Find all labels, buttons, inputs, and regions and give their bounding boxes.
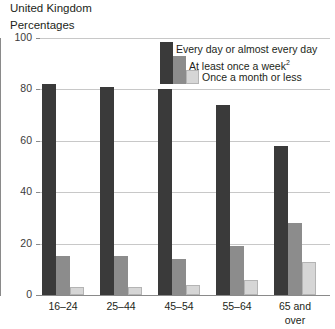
x-axis-tick-line: over xyxy=(255,313,335,327)
bar xyxy=(230,246,244,295)
gridline xyxy=(40,89,330,90)
bar xyxy=(56,256,70,295)
y-axis-line xyxy=(0,38,1,296)
bar xyxy=(70,287,84,295)
y-axis-tick-label: 40 xyxy=(0,185,32,197)
legend-label: Every day or almost every day xyxy=(176,42,317,56)
bar xyxy=(274,146,288,295)
y-axis-tick-label: 100 xyxy=(0,31,32,43)
chart-legend: Every day or almost every dayAt least on… xyxy=(160,42,335,84)
bar-chart: United Kingdom Percentages 020406080100 … xyxy=(0,0,335,329)
y-axis-tick-label: 20 xyxy=(0,237,32,249)
legend-swatch xyxy=(160,42,173,84)
x-axis-tick-label: 65 andover xyxy=(255,299,335,327)
y-axis-tick-label: 60 xyxy=(0,134,32,146)
bar xyxy=(100,87,114,295)
x-axis-tick-line: 65 and xyxy=(255,299,335,313)
y-axis-tick-mark xyxy=(36,295,40,296)
page-title: United Kingdom xyxy=(10,0,92,17)
x-axis-line xyxy=(40,295,330,296)
legend-footnote-marker: 2 xyxy=(286,59,290,66)
gridline xyxy=(40,141,330,142)
bar xyxy=(158,89,172,295)
bar xyxy=(42,84,56,295)
bar xyxy=(216,105,230,295)
y-axis-tick-label: 80 xyxy=(0,82,32,94)
gridline xyxy=(40,38,330,39)
bar xyxy=(302,262,316,295)
bar xyxy=(288,223,302,295)
legend-label: Once a month or less xyxy=(202,70,302,84)
bar xyxy=(244,280,258,295)
legend-swatch xyxy=(173,56,186,84)
bar xyxy=(128,287,142,295)
chart-header: United Kingdom Percentages xyxy=(10,0,92,34)
bar xyxy=(172,259,186,295)
bar xyxy=(186,285,200,295)
bar xyxy=(114,256,128,295)
legend-swatch xyxy=(186,70,199,84)
